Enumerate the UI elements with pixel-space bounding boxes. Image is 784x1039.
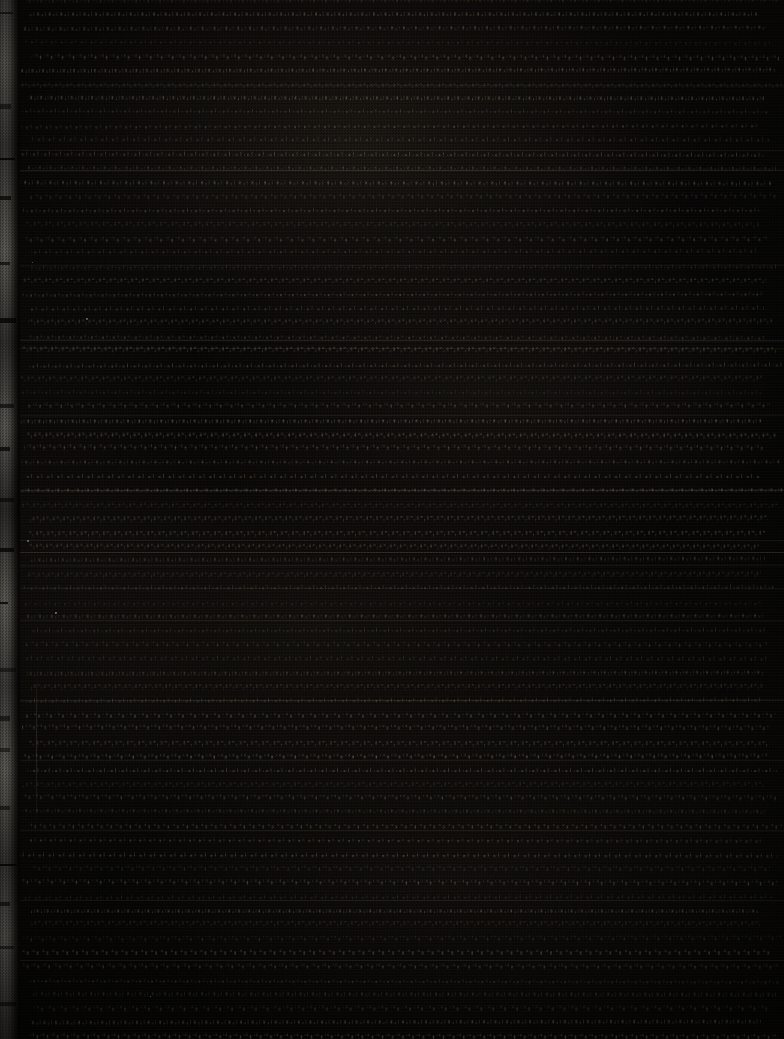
scanned-page xyxy=(0,0,784,1039)
black-crush-overlay xyxy=(0,0,784,1039)
